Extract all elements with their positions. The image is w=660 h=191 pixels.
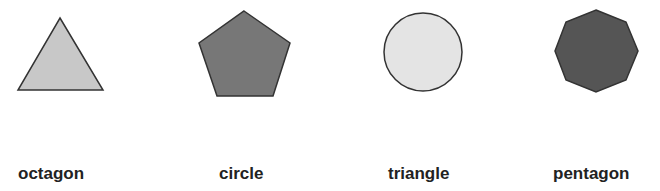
shapes-row xyxy=(0,0,660,191)
shape-matching-figure: octagon circle triangle pentagon xyxy=(0,0,660,191)
triangle-shape xyxy=(18,18,103,90)
label-pentagon: pentagon xyxy=(553,164,630,184)
circle-shape xyxy=(384,13,462,91)
label-triangle: triangle xyxy=(388,164,449,184)
label-circle: circle xyxy=(219,164,263,184)
label-octagon: octagon xyxy=(18,164,84,184)
octagon-shape xyxy=(555,10,638,92)
pentagon-shape xyxy=(199,11,290,96)
